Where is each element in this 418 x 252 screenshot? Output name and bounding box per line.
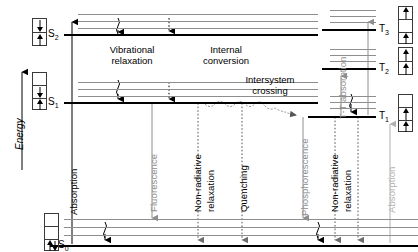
spin-cell-s1-middle (33, 86, 46, 99)
spin-cell-s2-lower (33, 33, 46, 47)
spin-cell-t3-middle (399, 20, 412, 33)
spin-cell-t1-middle (399, 108, 412, 121)
process-box-vr-line2: relaxation (86, 55, 178, 66)
spin-cell-s0-lower (45, 240, 58, 252)
spin-cell-s2-upper (33, 19, 46, 33)
vibrational-level-s0-v2 (64, 227, 418, 228)
spin-cell-s1-upper (33, 73, 46, 86)
jablonski-diagram: Energy S2 S1 S0 T3 T2 T1 (0, 0, 418, 252)
spin-box-s1 (32, 72, 47, 110)
spin-box-s0 (44, 213, 59, 251)
process-label-phosphorescence: Phosphorescence (299, 138, 310, 216)
energy-level-s1 (64, 102, 318, 104)
spin-cell-t2-upper (399, 48, 412, 62)
process-label-absorption-triplet: Absorption (386, 167, 397, 213)
state-label-s2: S2 (48, 28, 59, 41)
state-label-t1: T1 (379, 110, 389, 123)
process-box-isc-line2: crossing (228, 85, 312, 96)
energy-axis (0, 0, 418, 252)
process-box-internal-conversion: Internal conversion (180, 44, 272, 66)
spin-cell-t3-lower (399, 33, 412, 45)
spin-cell-s0-middle (45, 227, 58, 240)
vibrational-level-s0-v3 (64, 219, 418, 220)
process-box-isc-line1: Intersystem (228, 74, 312, 85)
vibrational-level-s2-v2 (78, 21, 318, 22)
spin-cell-t2-lower (399, 62, 412, 76)
state-label-t3: T3 (379, 23, 389, 36)
energy-level-t2 (322, 68, 376, 70)
spin-cell-s1-lower (33, 99, 46, 111)
process-box-ic-line1: Internal (180, 44, 272, 55)
process-label-non-radiative-relaxation-2-line1: Non-radiative (329, 154, 340, 212)
energy-level-s0 (50, 245, 418, 247)
vibrational-level-s2-v1 (78, 28, 318, 29)
spin-cell-t1-upper (399, 95, 412, 108)
process-label-tt-absorption: T-T absorption (337, 57, 348, 119)
spin-cell-t3-upper (399, 7, 412, 20)
process-label-non-radiative-relaxation-1-line2: relaxation (205, 170, 216, 212)
spin-cell-t1-lower (399, 121, 412, 133)
process-box-vr-line1: Vibrational (86, 44, 178, 55)
spin-cell-s0-upper (45, 214, 58, 227)
spin-box-s2 (32, 18, 47, 46)
energy-level-t3 (322, 29, 376, 31)
vibrational-level-s2-v3 (78, 14, 318, 15)
process-box-vibrational-relaxation: Vibrational relaxation (86, 44, 178, 66)
spin-box-t2 (398, 47, 413, 75)
process-label-quenching: Quenching (238, 165, 249, 212)
process-label-non-radiative-relaxation-2-line2: relaxation (342, 170, 353, 212)
vibrational-level-t3-v3 (330, 10, 376, 11)
spin-box-t3 (398, 6, 413, 44)
vibrational-level-t3-v1 (330, 22, 376, 23)
process-box-intersystem-crossing: Intersystem crossing (228, 74, 312, 96)
vibrational-level-t3-v2 (330, 16, 376, 17)
vibrational-level-s0-v1 (64, 235, 418, 236)
process-label-absorption: Absorption (68, 169, 79, 215)
energy-axis-label: Energy (14, 118, 25, 150)
process-label-non-radiative-relaxation-1-line1: Non-radiative (192, 154, 203, 212)
spin-box-t1 (398, 94, 413, 132)
vibrational-level-s1-v1 (78, 96, 318, 97)
energy-level-s2 (64, 34, 318, 36)
state-label-t2: T2 (379, 62, 389, 75)
state-label-s1: S1 (48, 96, 59, 109)
process-label-fluorescence: Fluorescence (148, 154, 159, 212)
vibrational-level-t2-v3 (330, 49, 376, 50)
process-box-ic-line2: conversion (180, 55, 272, 66)
